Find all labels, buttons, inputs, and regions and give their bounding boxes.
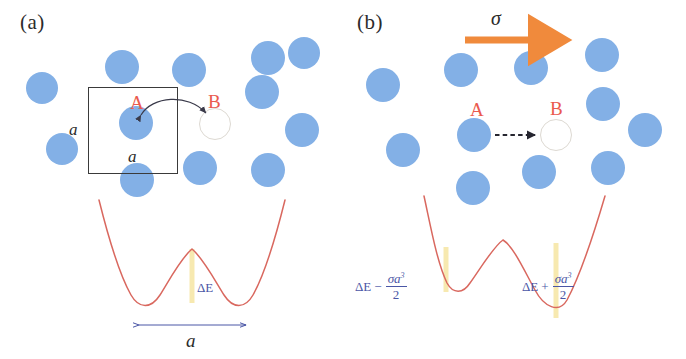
- right-formula-numerator: σa3: [553, 272, 574, 287]
- panel-a-graphics: [0, 0, 343, 359]
- left-barrier-formula: ΔE − σa3 2: [355, 272, 408, 301]
- barrier-energy-label: ΔE: [197, 281, 213, 294]
- figure-root: (a) a a A B: [0, 0, 686, 359]
- right-formula-base: ΔE: [522, 280, 538, 293]
- left-formula-operator: −: [374, 280, 381, 293]
- potential-curve-tilted: [424, 196, 605, 307]
- right-formula-fraction: σa3 2: [553, 272, 574, 301]
- panel-b: (b) σ A B: [343, 0, 686, 359]
- right-formula-denominator: 2: [560, 287, 567, 301]
- hop-arrow: [141, 99, 206, 115]
- spacing-label: a: [186, 331, 196, 350]
- right-formula-operator: +: [541, 280, 548, 293]
- panel-a: (a) a a A B: [0, 0, 343, 359]
- left-formula-base: ΔE: [355, 280, 371, 293]
- panel-b-graphics: [343, 0, 686, 359]
- left-formula-fraction: σa3 2: [386, 272, 407, 301]
- left-formula-denominator: 2: [393, 287, 400, 301]
- right-barrier-formula: ΔE + σa3 2: [522, 272, 575, 301]
- left-formula-numerator: σa3: [386, 272, 407, 287]
